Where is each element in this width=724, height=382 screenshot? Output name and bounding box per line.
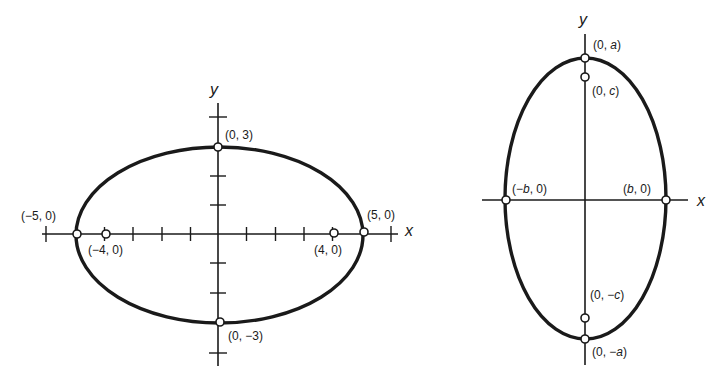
label-right-vertex: (5, 0) (367, 208, 395, 222)
right-y-axis-label: y (578, 11, 588, 28)
label-top-focus: (0, c) (592, 84, 619, 98)
point-bottom-vertex (581, 335, 589, 343)
point-top-vertex (581, 54, 589, 62)
right-points (502, 54, 670, 343)
left-y-axis-label: y (209, 81, 219, 98)
left-ellipse (76, 147, 363, 323)
label-bottom-vertex: (0, −a) (592, 345, 627, 359)
label-top-vertex: (0, a) (593, 38, 621, 52)
point-left-focus (102, 230, 110, 238)
right-ellipse-figure (482, 34, 688, 365)
point-left-vertex (73, 230, 81, 238)
left-ellipse-figure (42, 103, 398, 366)
label-left-vertex: (−5, 0) (21, 209, 56, 223)
label-right-focus: (4, 0) (314, 243, 342, 257)
label-left-covertex: (−b, 0) (512, 182, 547, 196)
label-top: (0, 3) (225, 128, 253, 142)
label-left-focus: (−4, 0) (88, 243, 123, 257)
point-top (214, 143, 222, 151)
point-bottom (216, 318, 224, 326)
point-bottom-focus (581, 314, 589, 322)
right-x-axis-label: x (696, 192, 706, 209)
label-bottom: (0, −3) (228, 329, 263, 343)
point-right-vertex (360, 228, 368, 236)
point-right-focus (330, 229, 338, 237)
label-bottom-focus: (0, −c) (590, 288, 624, 302)
point-top-focus (581, 73, 589, 81)
label-right-covertex: (b, 0) (623, 182, 651, 196)
point-right-covertex (662, 196, 670, 204)
left-x-axis-label: x (404, 222, 414, 239)
point-left-covertex (502, 196, 510, 204)
